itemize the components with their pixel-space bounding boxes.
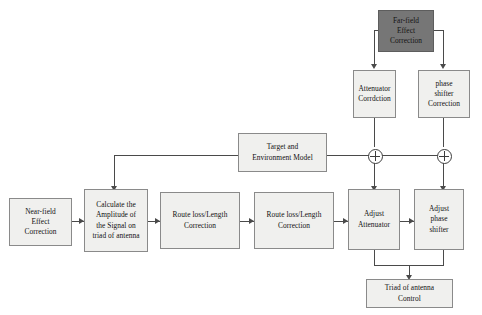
node-phase-shifter-correction[interactable]: phase shifter Correction (418, 70, 470, 118)
arrowhead-farfield-to-phase-correction (440, 64, 446, 69)
connector-target-left-v (114, 155, 115, 187)
node-route-loss-length-correction-1[interactable]: Route loss/Length Correction (160, 192, 240, 249)
connector-adjustphase-down (443, 250, 444, 266)
connector-sum-atten-to-adjust (374, 161, 375, 187)
connector-farfield-right-v (443, 30, 444, 65)
node-far-field-effect-correction[interactable]: Far-field Effect Correction (378, 10, 434, 52)
arrowhead-farfield-to-attenuator-correction (371, 64, 377, 69)
connector-sum-phase-to-adjust (443, 161, 444, 187)
node-label: Target and Environment Model (252, 142, 313, 162)
node-adjust-phase-shifter[interactable]: Adjust phase shifter (414, 189, 464, 250)
node-label: Triad of antenna Control (385, 283, 434, 303)
node-label: Adjust Attenuator (358, 209, 390, 229)
node-label: Near-field Effect Correction (24, 207, 56, 238)
node-adjust-attenuator[interactable]: Adjust Attenuator (348, 189, 400, 250)
connector-target-right-h (327, 155, 450, 156)
connector-farfield-left-v (374, 30, 375, 65)
connector-phasecorr-to-sum (443, 118, 444, 147)
summing-junction-phase (437, 149, 452, 164)
node-attenuator-correction[interactable]: Attenuator Corrdction (353, 70, 396, 118)
node-label: Far-field Effect Correction (390, 16, 422, 47)
connector-attencorr-to-sum (374, 118, 375, 147)
node-label: Attenuator Corrdction (358, 84, 391, 104)
node-route-loss-length-correction-2[interactable]: Route loss/Length Correction (254, 192, 334, 249)
node-triad-of-antenna-control[interactable]: Triad of antenna Control (366, 279, 453, 308)
node-label: Route loss/Length Correction (267, 210, 322, 230)
node-calculate-amplitude[interactable]: Calculate the Amplitude of the Signal on… (84, 189, 148, 252)
node-label: Adjust phase shifter (429, 204, 449, 235)
node-label: Calculate the Amplitude of the Signal on… (92, 200, 139, 241)
summing-junction-attenuator (368, 149, 383, 164)
node-label: Route loss/Length Correction (173, 210, 228, 230)
connector-adjustatten-down (374, 250, 375, 266)
diagram-canvas: Far-field Effect Correction Attenuator C… (0, 0, 482, 315)
connector-target-left-h (114, 155, 239, 156)
node-target-and-environment-model[interactable]: Target and Environment Model (238, 133, 327, 172)
node-near-field-effect-correction[interactable]: Near-field Effect Correction (9, 198, 72, 246)
node-label: phase shifter Correction (428, 79, 460, 110)
